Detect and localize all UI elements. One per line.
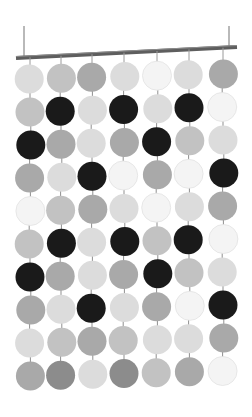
disc — [209, 324, 238, 353]
disc — [174, 159, 203, 188]
disc — [15, 164, 44, 193]
disc — [174, 324, 203, 353]
disc — [46, 262, 75, 291]
disc — [47, 295, 76, 324]
disc — [143, 94, 172, 123]
disc — [77, 63, 106, 92]
disc — [142, 193, 171, 222]
disc — [46, 196, 75, 225]
disc — [175, 357, 204, 386]
disc — [47, 328, 76, 357]
disc — [16, 197, 45, 226]
disc — [109, 326, 138, 355]
disc — [110, 227, 139, 256]
disc — [208, 357, 237, 386]
disc — [208, 192, 237, 221]
disc — [209, 291, 238, 320]
disc — [109, 260, 138, 289]
disc — [16, 296, 45, 325]
disc — [143, 160, 172, 189]
disc — [143, 61, 172, 90]
disc — [175, 93, 204, 122]
hanging-bar — [16, 46, 237, 59]
disc — [142, 358, 171, 387]
disc — [209, 159, 238, 188]
disc — [16, 98, 45, 127]
disc — [77, 129, 106, 158]
rail-highlight — [16, 46, 237, 57]
disc — [175, 258, 204, 287]
disc — [209, 126, 238, 155]
disc — [78, 360, 107, 389]
disc — [47, 229, 76, 258]
disc — [109, 161, 138, 190]
disc — [110, 62, 139, 91]
disc — [175, 192, 204, 221]
disc — [16, 131, 45, 160]
disc — [78, 261, 107, 290]
disc — [77, 228, 106, 257]
disc — [47, 64, 76, 93]
disc — [110, 194, 139, 223]
disc — [208, 93, 237, 122]
disc — [143, 325, 172, 354]
disc-curtain-photo — [0, 0, 252, 417]
disc — [78, 96, 107, 125]
disc — [15, 329, 44, 358]
disc — [16, 263, 45, 292]
disc — [175, 126, 204, 155]
disc — [77, 294, 106, 323]
disc — [174, 225, 203, 254]
disc — [46, 97, 75, 126]
disc — [47, 163, 76, 192]
disc — [208, 258, 237, 287]
disc — [78, 195, 107, 224]
disc — [15, 230, 44, 259]
disc — [110, 293, 139, 322]
rail-bar — [16, 47, 237, 58]
disc — [143, 226, 172, 255]
disc — [16, 362, 45, 391]
disc — [142, 292, 171, 321]
disc — [15, 65, 44, 94]
disc — [110, 128, 139, 157]
disc — [174, 60, 203, 89]
disc — [142, 127, 171, 156]
disc — [78, 162, 107, 191]
disc — [78, 327, 107, 356]
disc — [209, 60, 238, 89]
disc — [110, 359, 139, 388]
disc — [109, 95, 138, 124]
disc — [46, 361, 75, 390]
disc — [175, 291, 204, 320]
disc — [143, 259, 172, 288]
disc — [47, 130, 76, 159]
disc — [209, 225, 238, 254]
disc-grid — [15, 60, 239, 391]
